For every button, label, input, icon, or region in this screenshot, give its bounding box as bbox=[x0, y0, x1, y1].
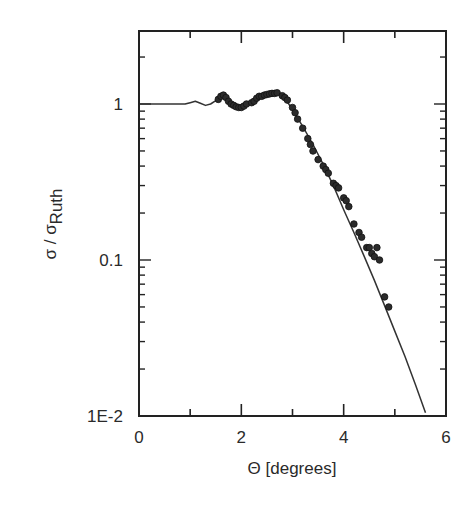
x-tick-label: 2 bbox=[237, 428, 246, 447]
x-tick-label: 4 bbox=[339, 428, 348, 447]
data-point bbox=[346, 203, 353, 210]
calculation-line bbox=[139, 93, 426, 413]
data-point bbox=[299, 125, 306, 132]
y-axis-label-main: σ / σ bbox=[41, 224, 60, 260]
data-markers bbox=[215, 90, 392, 311]
data-point bbox=[385, 304, 392, 311]
data-point bbox=[351, 221, 358, 228]
y-axis-label: σ / σRuth bbox=[41, 188, 66, 259]
y-tick-label: 1 bbox=[114, 95, 123, 114]
chart: 0246 10.11E-2 Θ [degrees] σ / σRuth bbox=[0, 0, 474, 510]
data-point bbox=[315, 156, 322, 163]
data-point bbox=[292, 109, 299, 116]
y-tick-label: 0.1 bbox=[99, 251, 123, 270]
data-point bbox=[374, 244, 381, 251]
data-point bbox=[376, 257, 383, 264]
data-point bbox=[358, 234, 365, 241]
axis-ticks bbox=[139, 31, 446, 416]
data-point bbox=[335, 185, 342, 192]
y-tick-label: 1E-2 bbox=[87, 407, 123, 426]
x-axis-label: Θ [degrees] bbox=[248, 459, 337, 478]
x-tick-label: 0 bbox=[134, 428, 143, 447]
x-tick-label: 6 bbox=[441, 428, 450, 447]
data-point bbox=[307, 141, 314, 148]
data-point bbox=[294, 116, 301, 123]
plot-frame bbox=[139, 31, 446, 416]
data-point bbox=[325, 170, 332, 177]
y-axis-label-subscript: Ruth bbox=[47, 188, 66, 224]
data-point bbox=[381, 294, 388, 301]
data-point bbox=[310, 148, 317, 155]
y-tick-labels: 10.11E-2 bbox=[87, 95, 123, 426]
data-point bbox=[284, 97, 291, 104]
x-tick-labels: 0246 bbox=[134, 428, 450, 447]
calculation-curve bbox=[139, 93, 426, 413]
